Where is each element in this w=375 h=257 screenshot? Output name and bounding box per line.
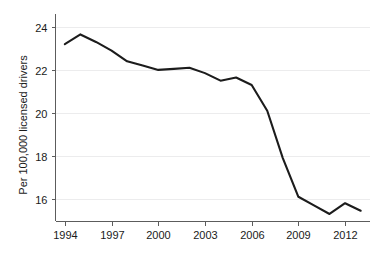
x-tick-label-2000: 2000: [146, 229, 170, 241]
line-chart: 1618202224 1994199720002003200620092012 …: [0, 0, 375, 257]
x-tick-label-1994: 1994: [53, 229, 77, 241]
y-tick-label-24: 24: [35, 22, 47, 34]
x-tick-label-1997: 1997: [100, 229, 124, 241]
y-tick-label-20: 20: [35, 108, 47, 120]
x-tick-label-2006: 2006: [240, 229, 264, 241]
y-tick-label-18: 18: [35, 151, 47, 163]
y-tick-label-22: 22: [35, 65, 47, 77]
chart-background: [0, 0, 375, 257]
x-tick-label-2009: 2009: [286, 229, 310, 241]
y-axis-title: Per 100,000 licensed drivers: [17, 55, 29, 195]
chart-container: 1618202224 1994199720002003200620092012 …: [0, 0, 375, 257]
x-tick-label-2012: 2012: [333, 229, 357, 241]
x-tick-label-2003: 2003: [193, 229, 217, 241]
y-tick-label-16: 16: [35, 194, 47, 206]
